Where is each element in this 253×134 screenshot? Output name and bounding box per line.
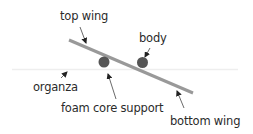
bottom-wing-label: bottom wing [170,114,240,128]
body-label: body [139,31,167,45]
bottom-wing-arrow [177,91,184,108]
top-wing-arrow [80,27,86,43]
wing-bar [69,40,193,93]
body-arrow [145,48,150,57]
body-circle [137,57,148,68]
foam-core-support-label: foam core support [61,101,163,115]
top-wing-label: top wing [60,9,108,23]
organza-label: organza [33,80,78,94]
wing-diagram: top wing body organza foam core support … [0,0,253,134]
foam-core-support-arrow [108,74,116,99]
foam-core-support-circle [99,57,110,68]
organza-arrow [61,72,67,78]
